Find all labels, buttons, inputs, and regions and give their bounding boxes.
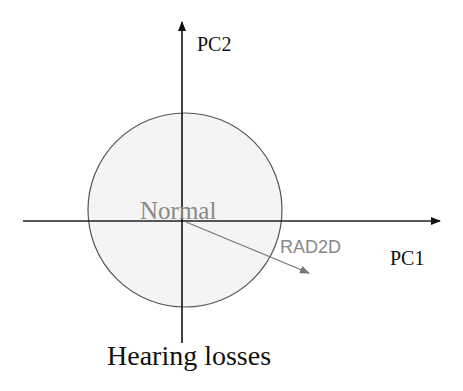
normal-region-label: Normal	[140, 198, 216, 223]
rad2d-vector-label: RAD2D	[280, 238, 341, 256]
pc1-axis-label: PC1	[390, 248, 424, 268]
pc2-axis-label: PC2	[197, 34, 231, 54]
diagram-canvas: PC2 PC1 Normal RAD2D Hearing losses	[0, 0, 463, 391]
pca-diagram	[0, 0, 463, 391]
hearing-losses-label: Hearing losses	[107, 342, 271, 370]
